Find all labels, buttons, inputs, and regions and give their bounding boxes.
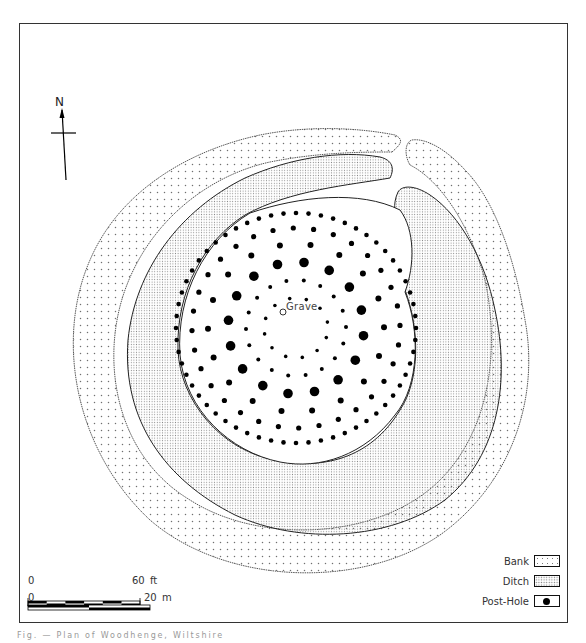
scale-bar-metres [28,605,150,610]
post-hole-icon [381,379,386,384]
post-hole-icon [308,242,314,248]
post-hole-icon [353,407,358,412]
post-hole-icon [332,295,336,299]
post-hole-icon [398,383,403,388]
site-plan-map [0,0,586,643]
post-hole-icon [269,213,274,218]
post-hole-icon [270,346,274,350]
post-hole-icon [374,411,379,416]
post-hole-icon [205,326,211,332]
post-hole-icon [268,285,272,289]
legend: Bank Ditch Post-Hole [450,552,560,612]
post-hole-icon [281,440,286,445]
post-hole-icon [191,309,196,314]
post-hole-icon [364,233,369,238]
post-hole-icon [341,342,345,346]
post-hole-icon [361,378,367,384]
post-hole-icon [391,361,396,366]
post-hole-icon [301,356,305,360]
post-hole-icon [234,226,239,231]
post-hole-icon [304,373,308,377]
post-hole-icon [324,266,334,276]
post-hole-icon [197,258,202,263]
post-hole-icon [276,424,281,429]
post-hole-icon [336,417,341,422]
post-hole-icon [263,332,267,336]
north-label: N [55,95,64,109]
post-hole-icon [251,234,256,239]
post-hole-icon [196,290,201,295]
post-hole-icon [174,326,179,331]
post-hole-icon [223,419,228,424]
post-hole-icon [344,325,348,329]
post-hole-icon [247,310,251,314]
post-hole-icon [184,373,189,378]
post-hole-icon [326,320,330,324]
post-hole-icon [398,268,403,273]
post-hole-icon [198,366,203,371]
post-hole-icon [233,244,238,249]
north-arrow-icon [51,108,76,180]
post-hole-icon [226,380,232,386]
legend-label-bank: Bank [504,556,529,567]
post-hole-icon [411,302,416,307]
post-hole-icon [264,317,268,321]
scale-metres-end: 20 [144,592,157,603]
post-hole-icon [184,279,189,284]
scale-feet-start: 0 [28,575,34,586]
post-hole-icon [378,268,383,273]
post-hole-icon [349,241,354,246]
post-hole-icon [234,425,239,430]
post-hole-icon [244,327,248,331]
post-hole-icon [296,425,301,430]
post-hole-icon [391,258,396,263]
post-hole-icon [309,408,315,414]
post-hole-icon [354,226,359,231]
post-hole-icon [222,398,227,403]
post-hole-icon [213,240,218,245]
post-hole-icon [209,383,214,388]
post-hole-icon [351,355,361,365]
post-hole-icon [354,425,359,430]
post-hole-icon [338,397,344,403]
post-hole-icon [325,336,329,340]
post-hole-icon [238,410,243,415]
post-hole-icon [318,306,322,310]
post-hole-icon [360,270,366,276]
post-hole-icon [248,253,254,259]
scale-metres-start: 0 [28,592,34,603]
post-hole-icon [225,272,231,278]
post-hole-icon [256,419,261,424]
post-hole-icon [180,290,185,295]
post-hole-icon [283,389,293,399]
post-hole-icon [286,373,290,377]
post-hole-icon [257,216,262,221]
post-hole-icon [284,355,288,359]
post-hole-icon [343,431,348,436]
figure-caption: Fig. — Plan of Woodhenge, Wiltshire [17,631,224,640]
post-hole-icon [391,393,396,398]
post-hole-icon [176,302,181,307]
post-hole-icon [205,249,210,254]
post-hole-icon [223,233,228,238]
post-hole-icon [245,431,250,436]
post-hole-icon [411,350,416,355]
legend-item-bank: Bank [450,552,560,570]
post-hole-icon [315,349,319,353]
post-hole-icon [374,240,379,245]
post-hole-icon [345,282,355,292]
post-hole-icon [397,323,402,328]
post-hole-icon [205,272,210,277]
post-hole-icon [331,232,336,237]
post-hole-icon [302,279,306,283]
post-hole-icon [273,260,283,270]
post-hole-icon [375,296,381,302]
post-hole-icon [320,367,324,371]
post-hole-icon [258,381,268,391]
post-hole-icon [319,438,324,443]
post-hole-icon [369,394,374,399]
post-hole-icon [343,221,348,226]
post-hole-icon [269,438,274,443]
post-hole-icon [197,393,202,398]
post-hole-icon [279,408,285,414]
